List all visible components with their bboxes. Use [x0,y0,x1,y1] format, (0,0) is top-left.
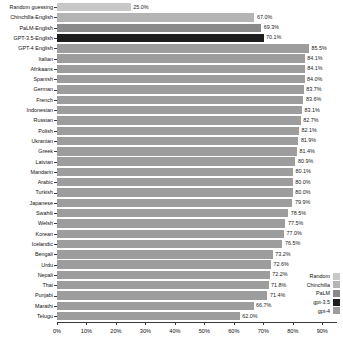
category-label: Italian [39,54,53,64]
bar-value-label: 78.5% [291,209,306,217]
bar [57,281,269,289]
bar-value-label: 84.1% [307,64,322,72]
bar-value-label: 83.7% [306,85,321,93]
category-label: GPT-3.5-English [13,33,53,43]
bar [57,127,299,135]
category-label: French [36,95,53,105]
y-axis-tick [54,17,57,18]
bar [57,137,298,145]
category-label: GPT-4 English [18,43,53,53]
bar [57,271,270,279]
bar [57,250,273,258]
bar-row: 81.4% [57,146,337,156]
bar-row: 84.1% [57,64,337,74]
y-axis-tick [54,141,57,142]
category-label: Afrikaans [31,64,53,74]
x-axis-tick-label: 40% [169,328,180,334]
bar [57,209,288,217]
legend-swatch [333,299,340,306]
bar-value-label: 76.5% [285,239,300,247]
bar-row: 80.9% [57,156,337,166]
legend-label: Random [310,273,330,279]
bar [57,188,293,196]
bar-row: 83.6% [57,95,337,105]
y-axis-tick [54,59,57,60]
bar-value-label: 69.3% [264,23,279,31]
y-axis-tick [54,38,57,39]
bar-row: 79.9% [57,198,337,208]
legend-swatch [333,281,340,288]
category-label: Bengali [35,249,53,259]
horizontal-bar-chart: 25.0%67.0%69.3%70.1%85.5%84.1%84.1%84.0%… [0,0,343,342]
bar-row: 80.0% [57,187,337,197]
bar-value-label: 82.7% [303,116,318,124]
plot-area: 25.0%67.0%69.3%70.1%85.5%84.1%84.1%84.0%… [57,2,337,318]
legend-item[interactable]: Chinchilla [268,281,340,290]
category-label: German [34,84,53,94]
y-axis-tick [54,162,57,163]
bar-row: 80.1% [57,167,337,177]
bar [57,199,292,207]
bar [57,24,261,32]
legend-swatch [333,290,340,297]
bar-row: 69.3% [57,23,337,33]
category-label: Arabic [38,177,53,187]
bar [57,178,293,186]
bar-row: 80.0% [57,177,337,187]
x-axis-tick-label: 80% [287,328,298,334]
bar [57,65,305,73]
y-axis-tick [54,306,57,307]
bar-value-label: 80.0% [295,178,310,186]
bar-value-label: 25.0% [133,3,148,11]
category-label: Marathi [35,301,53,311]
y-axis-tick [54,234,57,235]
bar [57,240,282,248]
bar [57,44,309,52]
category-label: Polish [38,126,53,136]
legend-label: PaLM [316,290,330,296]
category-label: Latvian [36,157,53,167]
bar-row: 77.5% [57,218,337,228]
bar-row: 78.5% [57,208,337,218]
legend-item[interactable]: PaLM [268,289,340,298]
legend-swatch [333,307,340,314]
category-label: Icelandic [32,239,53,249]
bar [57,116,301,124]
legend-item[interactable]: gpt-3.5 [268,298,340,307]
x-axis-tick-label: 10% [81,328,92,334]
bar [57,230,284,238]
y-axis-tick [54,48,57,49]
bar-value-label: 62.0% [242,312,257,320]
bar [57,157,295,165]
category-label: Welsh [38,218,53,228]
bar-value-label: 67.0% [257,13,272,21]
legend-item[interactable]: Random [268,272,340,281]
y-axis-tick [54,213,57,214]
x-axis-tick [293,322,294,325]
legend-label: Chinchilla [307,282,330,288]
bar-row: 85.5% [57,43,337,53]
bar-value-label: 80.9% [298,157,313,165]
bar [57,34,264,42]
bar-row: 84.1% [57,53,337,63]
bar [57,13,254,21]
category-label: Greek [38,146,53,156]
category-label: Russian [34,115,53,125]
bar-value-label: 82.1% [301,126,316,134]
x-axis-tick [145,322,146,325]
chart-legend: RandomChinchillaPaLMgpt-3.5gpt-4 [268,272,340,315]
legend-item[interactable]: gpt-4 [268,306,340,315]
x-axis-tick [57,322,58,325]
x-axis-tick [116,322,117,325]
bar-value-label: 70.1% [266,33,281,41]
bar-value-label: 85.5% [312,44,327,52]
y-axis-tick [54,120,57,121]
y-axis-tick [54,100,57,101]
bar-row: 83.7% [57,84,337,94]
y-axis-tick [54,285,57,286]
y-axis-tick [54,275,57,276]
bar-row: 77.0% [57,229,337,239]
bar-row: 70.1% [57,33,337,43]
category-label: Japanese [30,198,53,208]
bar-row: 81.9% [57,136,337,146]
